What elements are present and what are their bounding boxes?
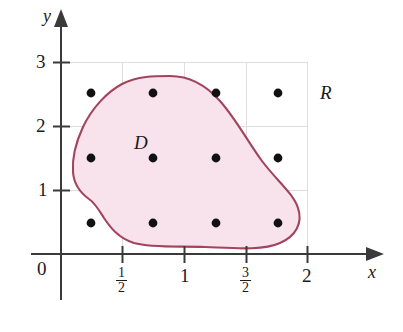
fraction-one-half: 1 2 <box>116 266 127 296</box>
region-label-r: R <box>320 82 332 104</box>
sample-point <box>212 154 221 163</box>
sample-point <box>87 89 96 98</box>
origin-label: 0 <box>37 259 47 278</box>
math-figure-region-d-in-r: y x 0 3 2 1 1 2 1 3 2 2 D R <box>0 0 403 332</box>
sample-point <box>212 219 221 228</box>
region-label-d: D <box>134 132 148 154</box>
sample-point <box>149 219 158 228</box>
fraction-three-halves: 3 2 <box>240 266 251 296</box>
sample-point <box>212 89 221 98</box>
x-axis-label: x <box>368 262 376 283</box>
fraction-numerator: 3 <box>240 266 251 280</box>
sample-point <box>274 154 283 163</box>
x-axis-arrowhead <box>366 247 384 261</box>
y-axis-label: y <box>43 6 51 27</box>
region-d-shape <box>73 76 300 248</box>
y-axis-arrowhead <box>54 9 68 27</box>
x-tick-label-2: 2 <box>302 266 312 285</box>
sample-point <box>87 154 96 163</box>
y-tick-label-3: 3 <box>36 52 46 71</box>
figure-canvas <box>0 0 403 332</box>
fraction-denominator: 2 <box>116 281 127 295</box>
fraction-numerator: 1 <box>116 266 127 280</box>
x-tick-label-three-halves: 3 2 <box>240 266 251 296</box>
sample-point <box>149 89 158 98</box>
sample-point <box>87 219 96 228</box>
y-tick-label-2: 2 <box>36 116 46 135</box>
sample-point <box>274 219 283 228</box>
sample-point <box>149 154 158 163</box>
x-tick-label-1: 1 <box>180 266 190 285</box>
sample-point <box>274 89 283 98</box>
y-tick-label-1: 1 <box>38 180 48 199</box>
fraction-denominator: 2 <box>240 281 251 295</box>
x-tick-label-half: 1 2 <box>116 266 127 296</box>
